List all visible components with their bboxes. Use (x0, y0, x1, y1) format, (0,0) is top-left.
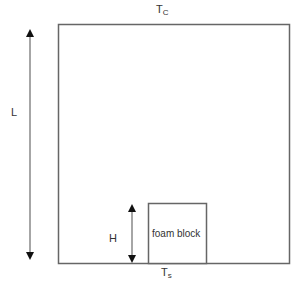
block-height-label: H (109, 233, 117, 244)
bottom-temperature-label: Ts (161, 267, 172, 280)
diagram-canvas (0, 0, 304, 287)
top-temperature-label: TC (156, 4, 169, 17)
length-label: L (11, 107, 17, 118)
foam-block-label: foam block (152, 229, 200, 239)
